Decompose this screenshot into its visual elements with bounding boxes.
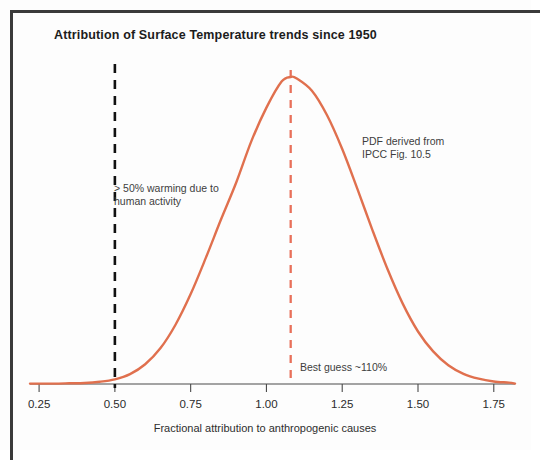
x-tick-label-3: 1.00 (255, 398, 277, 410)
x-tick-label-6: 1.75 (483, 398, 505, 410)
x-tick-label-4: 1.25 (331, 398, 353, 410)
x-axis-ticks (39, 384, 494, 392)
x-tick-label-5: 1.50 (407, 398, 429, 410)
best-guess-annotation: Best guess ~110% (300, 361, 387, 374)
threshold-annotation: > 50% warming due to human activity (114, 182, 219, 208)
x-tick-label-2: 0.75 (179, 398, 201, 410)
x-tick-label-0: 0.25 (28, 398, 50, 410)
pdf-curve-path (30, 77, 515, 384)
x-tick-label-1: 0.50 (104, 398, 126, 410)
source-annotation: PDF derived from IPCC Fig. 10.5 (362, 135, 444, 161)
x-axis-title: Fractional attribution to anthropogenic … (154, 422, 377, 434)
